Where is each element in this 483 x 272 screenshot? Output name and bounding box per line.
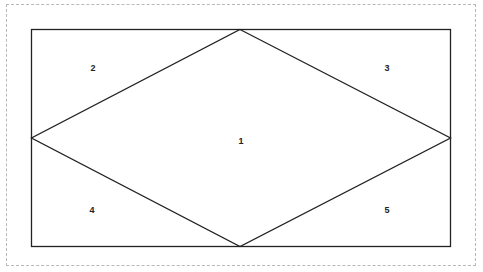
region-label-5: 5: [384, 205, 389, 215]
region-label-4: 4: [89, 205, 94, 215]
region-label-2: 2: [90, 63, 95, 73]
region-label-1: 1: [238, 136, 243, 146]
region-label-3: 3: [384, 63, 389, 73]
